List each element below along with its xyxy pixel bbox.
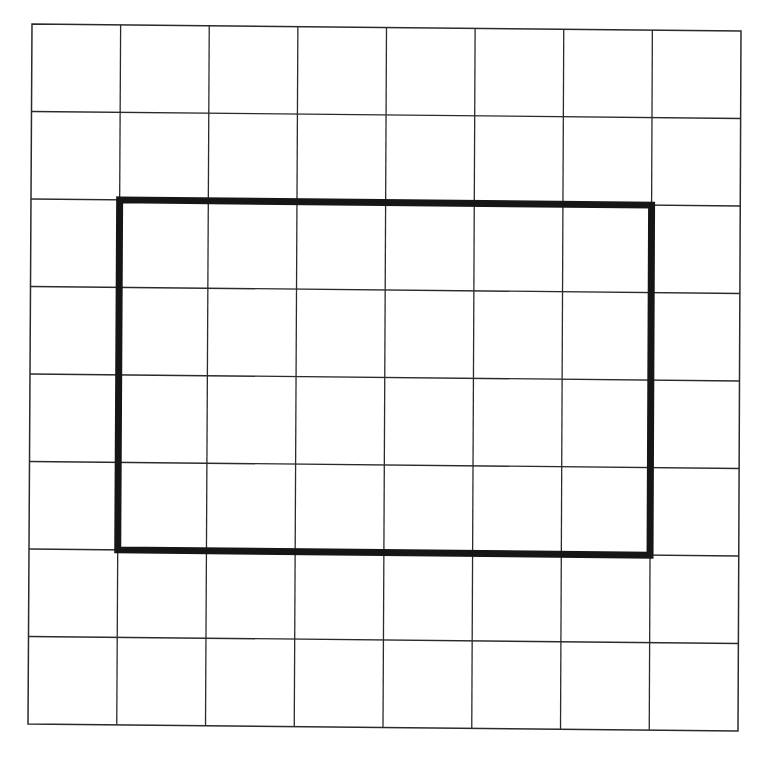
grid-diagram [0, 0, 761, 758]
grid-lines [29, 25, 741, 730]
